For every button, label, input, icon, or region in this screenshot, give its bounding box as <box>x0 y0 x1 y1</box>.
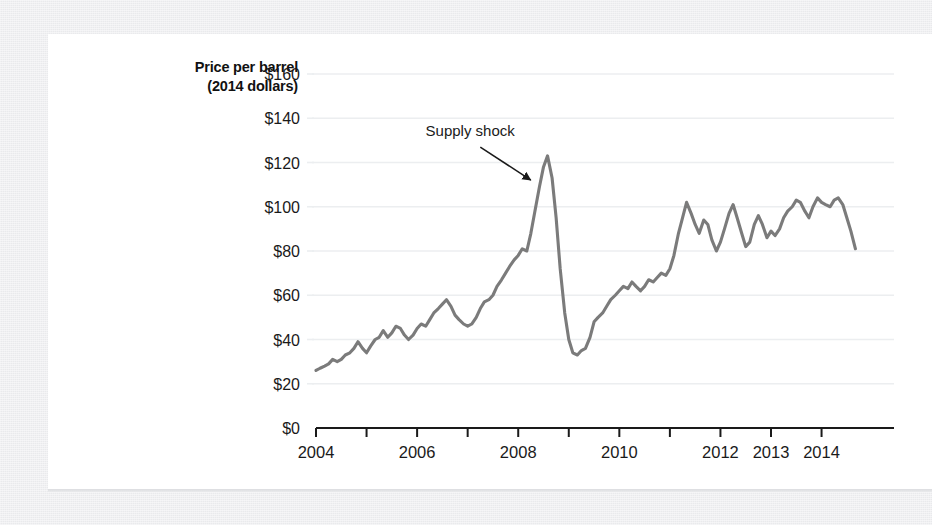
y-tick-label: $60 <box>273 287 300 304</box>
x-tick-label: 2006 <box>399 443 436 461</box>
y-tick-label: $100 <box>264 199 300 216</box>
oil-price-line-chart: $0$20$40$60$80$100$120$140$160 200420062… <box>48 34 932 489</box>
screenshot-page: Price per barrel (2014 dollars) $0$20$40… <box>0 0 932 525</box>
x-tick-label: 2012 <box>702 443 739 461</box>
annotation-label: Supply shock <box>426 122 516 139</box>
y-tick-labels-group: $0$20$40$60$80$100$120$140$160 <box>264 66 300 437</box>
y-tick-label: $40 <box>273 332 300 349</box>
x-tick-label: 2013 <box>753 443 790 461</box>
price-series-line <box>316 156 855 371</box>
annotation-arrow <box>480 147 531 180</box>
x-tick-marks-group <box>316 428 822 437</box>
y-tick-marks-group <box>307 74 314 384</box>
annotation-group: Supply shock <box>426 122 531 180</box>
x-tick-label: 2004 <box>298 443 335 461</box>
y-tick-label: $120 <box>264 155 300 172</box>
x-tick-label: 2014 <box>803 443 840 461</box>
x-tick-labels-group: 2004200620082010201220132014 <box>298 443 840 461</box>
y-tick-label: $80 <box>273 243 300 260</box>
y-tick-label: $20 <box>273 376 300 393</box>
x-tick-label: 2008 <box>500 443 537 461</box>
gridlines-group <box>312 74 894 384</box>
x-tick-label: 2010 <box>601 443 638 461</box>
y-tick-label: $0 <box>282 420 300 437</box>
price-series-line-group <box>316 156 855 371</box>
y-tick-label: $140 <box>264 110 300 127</box>
y-tick-label: $160 <box>264 66 300 83</box>
figure-card: Price per barrel (2014 dollars) $0$20$40… <box>48 34 932 489</box>
